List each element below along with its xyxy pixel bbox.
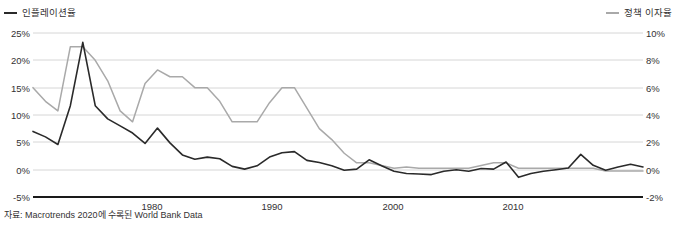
policy-rate-line bbox=[33, 47, 643, 171]
inflation-policy-rate-chart: 인플레이션율 정책 이자율 25% 20% 15% 10% 5% 0% -5% … bbox=[0, 0, 676, 227]
source-note: 자료: Macrotrends 2020에 수록된 World Bank Dat… bbox=[4, 211, 202, 220]
inflation-line bbox=[33, 42, 643, 177]
gridlines bbox=[33, 33, 643, 170]
plot-area bbox=[0, 0, 676, 227]
